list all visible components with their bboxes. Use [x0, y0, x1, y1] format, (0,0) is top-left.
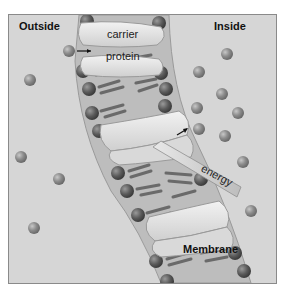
- carrier-label: carrier: [107, 28, 138, 40]
- solutes-outside: [15, 45, 75, 234]
- carrier-protein-diagram: Outside Inside carrier protein energy Me…: [8, 14, 277, 284]
- protein-label: protein: [106, 50, 140, 62]
- outside-label: Outside: [19, 20, 60, 32]
- inside-label: Inside: [214, 20, 246, 32]
- membrane-label: Membrane: [183, 243, 238, 255]
